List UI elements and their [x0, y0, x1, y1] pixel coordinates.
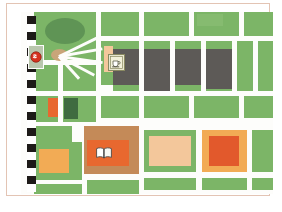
map-figure: Stop Cafe Library Ci	[0, 0, 282, 212]
block-b5[interactable]	[252, 178, 273, 190]
checker-cell	[27, 24, 36, 32]
coffee-cup-icon	[110, 56, 123, 69]
checker-cell	[27, 168, 36, 176]
park-ellipse	[45, 18, 85, 44]
checker-cell	[27, 144, 36, 152]
checker-cell	[27, 112, 36, 120]
checker-cell	[27, 96, 36, 104]
checker-cell	[27, 104, 36, 112]
block-n3-inner	[197, 14, 223, 26]
map-title: City block map illustration	[21, 12, 22, 13]
checker-cell	[27, 128, 36, 136]
block-m4[interactable]	[144, 96, 189, 118]
block-b2[interactable]	[87, 180, 139, 194]
checker-cell	[27, 72, 36, 80]
checker-cell	[27, 16, 36, 24]
checkered-boundary-strip	[27, 12, 36, 194]
block-se[interactable]	[252, 130, 273, 172]
stop-sign-icon	[30, 51, 42, 63]
plaza-orange-core	[209, 136, 239, 166]
checker-cell	[27, 80, 36, 88]
checker-cell	[27, 32, 36, 40]
block-n2[interactable]	[144, 12, 189, 36]
open-book-icon	[95, 146, 113, 161]
checker-cell	[27, 136, 36, 144]
plot-orange-small	[48, 98, 58, 117]
plaza-orange-sw	[39, 149, 69, 173]
block-n4[interactable]	[244, 12, 273, 36]
building-gray-2[interactable]	[144, 49, 170, 91]
checker-cell	[27, 152, 36, 160]
block-b1[interactable]	[34, 184, 82, 194]
map-canvas[interactable]: Stop Cafe Library Ci	[21, 12, 273, 194]
block-g6[interactable]	[258, 41, 273, 91]
checker-cell	[27, 176, 36, 184]
checker-cell	[27, 184, 36, 192]
library-marker[interactable]: Library	[94, 145, 113, 162]
block-b4[interactable]	[202, 178, 247, 190]
checker-cell	[27, 160, 36, 168]
cafe-marker[interactable]: Cafe	[108, 54, 125, 71]
block-m6[interactable]	[244, 96, 273, 118]
block-n1[interactable]	[101, 12, 139, 36]
plot-darkgreen	[64, 98, 78, 119]
block-m5[interactable]	[194, 96, 239, 118]
block-g5[interactable]	[237, 41, 253, 91]
block-b3[interactable]	[144, 178, 196, 190]
building-gray-4[interactable]	[206, 49, 232, 89]
building-gray-3[interactable]	[175, 49, 201, 85]
map-frame: Stop Cafe Library Ci	[6, 3, 270, 196]
checker-cell	[27, 120, 36, 128]
stop-marker[interactable]: Stop	[28, 45, 44, 69]
block-m3[interactable]	[101, 96, 139, 118]
checker-cell	[27, 88, 36, 96]
plaza-peach-south	[149, 136, 191, 166]
